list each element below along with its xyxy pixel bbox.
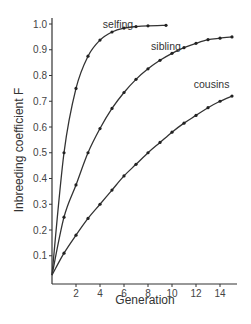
data-point [134, 78, 137, 81]
series-labels: selfingsiblingcousins [103, 18, 230, 91]
y-tick-label: 0.1 [33, 250, 47, 261]
data-point [110, 188, 113, 191]
y-tick-label: 1.0 [33, 19, 47, 30]
y-tick-label: 0.5 [33, 147, 47, 158]
series-lines [52, 24, 234, 275]
data-point [146, 24, 149, 27]
data-point [206, 38, 209, 41]
series-line-selfing [52, 25, 166, 275]
data-point [98, 38, 101, 41]
data-point [146, 151, 149, 154]
data-point [206, 106, 209, 109]
chart: 0.10.20.30.40.50.60.70.80.91.02468101214… [0, 0, 251, 324]
series-label-selfing: selfing [103, 18, 134, 30]
data-point [110, 107, 113, 110]
y-tick-label: 0.3 [33, 199, 47, 210]
data-point [134, 163, 137, 166]
x-tick-label: 12 [190, 288, 202, 299]
data-point [74, 87, 77, 90]
data-point [122, 91, 125, 94]
data-point [74, 183, 77, 186]
data-point [86, 55, 89, 58]
data-point [158, 141, 161, 144]
series-line-sibling [52, 37, 232, 275]
data-point [194, 114, 197, 117]
data-point [122, 174, 125, 177]
data-point [194, 42, 197, 45]
data-point [170, 131, 173, 134]
x-axis-title: Generation [115, 293, 174, 307]
series-line-cousins [52, 96, 232, 275]
y-axis-title: Inbreeding coefficient F [12, 88, 26, 213]
data-point [98, 127, 101, 130]
series-label-sibling: sibling [151, 40, 181, 52]
data-point [164, 24, 167, 27]
data-point [182, 46, 185, 49]
data-point [134, 25, 137, 28]
series-label-cousins: cousins [194, 78, 230, 90]
y-tick-label: 0.4 [33, 173, 47, 184]
y-tick-label: 0.9 [33, 44, 47, 55]
data-point [86, 151, 89, 154]
data-point [86, 217, 89, 220]
y-tick-label: 0.7 [33, 96, 47, 107]
data-point [230, 35, 233, 38]
data-point [74, 234, 77, 237]
data-point [170, 52, 173, 55]
data-point [62, 216, 65, 219]
data-point [62, 151, 65, 154]
data-point [158, 59, 161, 62]
y-tick-label: 0.6 [33, 122, 47, 133]
x-tick-label: 4 [97, 288, 103, 299]
data-point [110, 30, 113, 33]
data-point [62, 252, 65, 255]
data-point [98, 203, 101, 206]
data-point [182, 122, 185, 125]
y-tick-label: 0.8 [33, 70, 47, 81]
data-point [230, 95, 233, 98]
x-tick-label: 2 [73, 288, 79, 299]
x-tick-label: 14 [214, 288, 226, 299]
data-point [218, 100, 221, 103]
data-point [146, 67, 149, 70]
data-point [218, 37, 221, 40]
y-tick-label: 0.2 [33, 225, 47, 236]
